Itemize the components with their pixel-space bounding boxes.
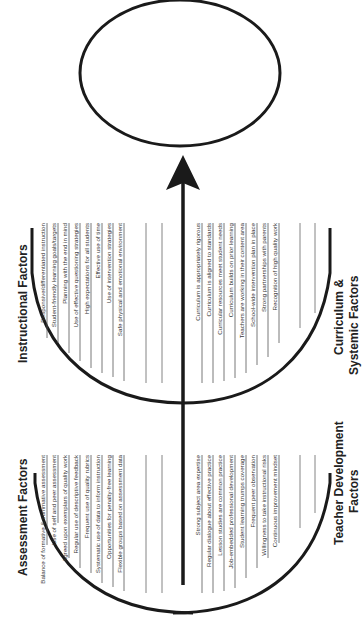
list-item: Student-friendly learning goals/targets: [50, 223, 57, 327]
list-item: Safe physical and emotional environment: [116, 223, 123, 336]
curriculum-title-line2: Systemic Factors: [347, 275, 361, 375]
instructional-title: Instructional Factors: [16, 244, 30, 363]
assessment-items: Balance of formative & summative assessm…: [39, 454, 162, 593]
list-item: High expectations for all students: [83, 223, 90, 314]
list-item: Responsive/differentiated instruction: [39, 222, 46, 322]
list-item: Effective use of time: [94, 222, 101, 278]
curriculum-title-line1: Curriculum &: [332, 279, 346, 355]
list-item: Agreed upon exemplars of quality work: [61, 454, 68, 562]
teacher-development-title-line1: Teacher Development: [332, 421, 346, 545]
assessment-title: Assessment Factors: [16, 458, 30, 576]
list-item: Use of effective questioning strategies: [72, 223, 79, 327]
list-item: Job-embedded professional development: [227, 455, 234, 569]
list-item: Curriculum builds on prior learning: [227, 222, 234, 317]
assessment-arc: [35, 473, 193, 613]
list-item: Use of self and peer assessment: [50, 455, 57, 545]
list-item: Lesson studies are common practice: [216, 454, 223, 555]
list-item: Planning with the end in mind: [61, 222, 68, 303]
list-item: School-wide intervention plan in place: [249, 222, 256, 326]
list-item: Curriculum is appropriately rigorous: [194, 223, 201, 321]
teacher-development-items: Strong subject area expertise Regular di…: [194, 454, 315, 593]
list-item: Use of intervention strategies: [105, 223, 112, 303]
list-item: Recognition of high quality work: [271, 222, 278, 310]
list-item: Strong partnerships with parents: [260, 223, 267, 312]
list-item: Curriculum is aligned to standards: [205, 223, 212, 317]
list-item: Flexible groups based on assessment data: [116, 454, 123, 572]
list-item: Frequent use of quality rubrics: [83, 455, 90, 538]
list-item: Regular dialogue about effective practic…: [205, 454, 212, 567]
list-item: Student learning trumps coverage: [238, 454, 245, 547]
goal-ellipse: [80, 0, 280, 146]
list-item: Frequent peer observation: [249, 454, 256, 527]
list-item: Continuous improvement mindset: [271, 455, 278, 547]
list-item: Curricular resources meet student needs: [216, 223, 223, 335]
teacher-development-title-line2: Factors: [347, 469, 361, 513]
list-item: Strong subject area expertise: [194, 454, 201, 535]
list-item: Willingness to take instructional risks: [260, 455, 267, 556]
instructional-items: Responsive/differentiated instruction St…: [39, 222, 162, 383]
list-item: Regular use of descriptive feedback: [72, 454, 79, 553]
list-item: Opportunities for penalty-free learning: [105, 454, 112, 558]
list-item: Systematic use of data to inform instruc…: [94, 454, 101, 573]
list-item: Teachers are working in their content ar…: [238, 222, 245, 338]
list-item: Balance of formative & summative assessm…: [39, 455, 46, 584]
curriculum-items: Curriculum is appropriately rigorous Cur…: [194, 222, 315, 383]
fishbone-diagram: Assessment Factors Instructional Factors…: [0, 0, 363, 623]
